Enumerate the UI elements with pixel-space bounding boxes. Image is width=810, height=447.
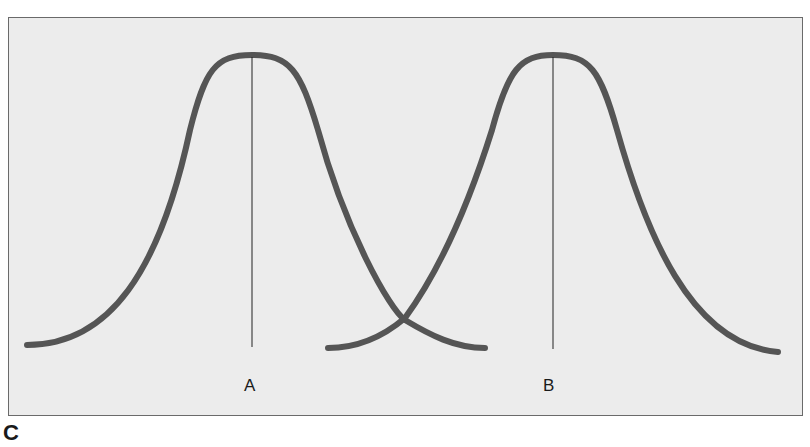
label-b: B bbox=[543, 376, 554, 396]
bell-curves-diagram bbox=[0, 0, 810, 447]
label-a: A bbox=[244, 376, 255, 396]
figure-panel-label: C bbox=[3, 420, 19, 446]
